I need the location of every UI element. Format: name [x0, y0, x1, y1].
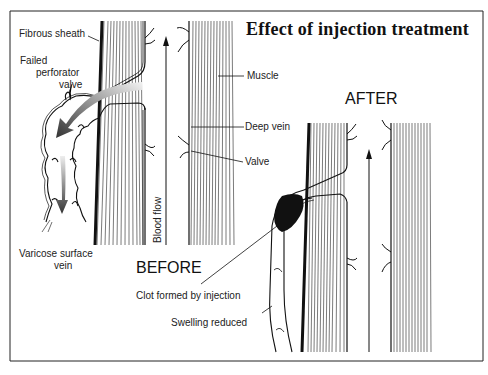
label-valve: Valve — [245, 156, 269, 167]
after-fibrous-sheath — [302, 123, 309, 352]
label-failed-perforator-valve-3: valve — [59, 79, 82, 90]
after-muscle-left — [308, 123, 344, 352]
label-failed-perforator-valve-1: Failed — [20, 55, 47, 66]
diagram-title: Effect of injection treatment — [246, 19, 469, 40]
valve-cusp — [145, 28, 155, 44]
label-deep-vein: Deep vein — [245, 121, 290, 132]
varicose-surface-vein — [41, 92, 100, 222]
label-clot-formed: Clot formed by injection — [136, 290, 241, 301]
label-muscle: Muscle — [247, 70, 279, 81]
after-muscle-right — [394, 123, 431, 352]
label-before: BEFORE — [136, 259, 202, 277]
fibrous-sheath — [95, 21, 102, 245]
label-varicose-surface-vein-2: vein — [54, 260, 72, 271]
label-fibrous-sheath: Fibrous sheath — [19, 28, 85, 39]
label-after: AFTER — [345, 90, 397, 108]
before-muscle-left — [97, 21, 143, 245]
clot — [274, 194, 304, 232]
label-swelling-reduced: Swelling reduced — [171, 317, 247, 328]
reflux-arrow-down — [56, 156, 68, 214]
before-muscle-right — [191, 21, 234, 245]
label-failed-perforator-valve-2: perforator — [36, 67, 79, 78]
label-varicose-surface-vein-1: Varicose surface — [19, 248, 93, 259]
label-blood-flow: Blood flow — [152, 197, 163, 243]
valve-cusp — [145, 144, 155, 156]
